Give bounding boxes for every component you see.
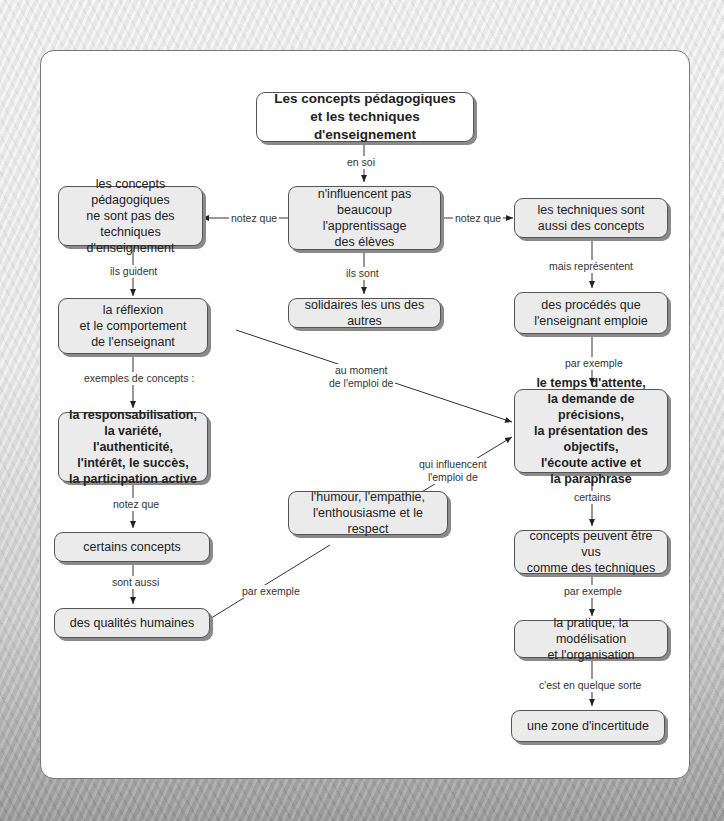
link-par-exemple-2: par exemple <box>240 585 302 598</box>
node-concepts-techniques: concepts peuvent être vus comme des tech… <box>514 530 668 574</box>
node-certains-concepts: certains concepts <box>54 532 210 562</box>
link-par-exemple-1: par exemple <box>563 357 625 370</box>
link-qui-influencent: qui influencent l'emploi de <box>417 458 489 484</box>
link-par-exemple-3: par exemple <box>562 585 624 598</box>
link-mais-representent: mais représentent <box>547 260 635 273</box>
node-pratique: la pratique, la modélisation et l'organi… <box>514 620 668 658</box>
link-ils-sont: ils sont <box>344 267 381 280</box>
node-reflexion: la réflexion et le comportement de l'ens… <box>58 298 208 354</box>
node-n-influencent: n'influencent pas beaucoup l'apprentissa… <box>288 186 441 250</box>
node-techniques-concepts: les techniques sont aussi des concepts <box>514 198 668 238</box>
node-zone: une zone d'incertitude <box>511 710 665 742</box>
node-concepts-not-techniques: les concepts pédagogiques ne sont pas de… <box>58 186 203 246</box>
node-procedes: des procédés que l'enseignant emploie <box>514 292 668 334</box>
node-solidaires: solidaires les uns des autres <box>288 298 441 328</box>
node-technique-examples: le temps d'attente, la demande de précis… <box>514 389 668 473</box>
link-exemples-concepts: exemples de concepts : <box>82 372 196 385</box>
node-title: Les concepts pédagogiques et les techniq… <box>256 92 474 142</box>
link-sont-aussi: sont aussi <box>110 576 161 589</box>
link-c-est-en: c'est en quelque sorte <box>537 679 643 692</box>
link-en-soi: en soi <box>345 156 377 169</box>
node-concept-examples: la responsabilisation, la variété, l'aut… <box>58 412 208 482</box>
node-qualites: des qualités humaines <box>54 608 210 638</box>
node-humour: l'humour, l'empathie, l'enthousiasme et … <box>288 491 448 535</box>
link-notez-que-left: notez que <box>229 212 279 225</box>
link-au-moment: au moment de l'emploi de <box>327 364 395 390</box>
link-certains: certains <box>572 491 613 504</box>
link-ils-guident: ils guident <box>108 265 159 278</box>
link-notez-que-right: notez que <box>453 212 503 225</box>
link-notez-que-2: notez que <box>111 498 161 511</box>
